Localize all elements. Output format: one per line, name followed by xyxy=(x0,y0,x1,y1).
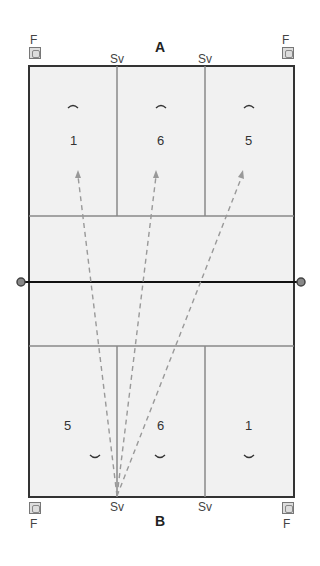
flag-icon xyxy=(282,502,294,514)
position-number: 1 xyxy=(70,134,77,147)
court-diagram xyxy=(0,0,320,566)
position-number: 6 xyxy=(157,134,164,147)
flag-label-bottom-left: F xyxy=(30,518,37,530)
serve-label-bottom-left: Sv xyxy=(110,501,124,513)
team-a-label: A xyxy=(155,40,165,54)
flag-icon xyxy=(282,47,294,59)
flag-label-bottom-right: F xyxy=(283,518,290,530)
position-number: 6 xyxy=(157,419,164,432)
flag-label-top-left: F xyxy=(30,34,37,46)
serve-label-top-left: Sv xyxy=(110,53,124,65)
team-b-label: B xyxy=(155,514,165,528)
position-number: 5 xyxy=(64,419,71,432)
position-number: 5 xyxy=(245,134,252,147)
flag-icon xyxy=(29,47,41,59)
position-number: 1 xyxy=(245,419,252,432)
net-post-right xyxy=(297,278,305,286)
serve-label-bottom-right: Sv xyxy=(198,501,212,513)
flag-icon xyxy=(29,502,41,514)
serve-label-top-right: Sv xyxy=(198,53,212,65)
flag-label-top-right: F xyxy=(282,34,289,46)
net-post-left xyxy=(17,278,25,286)
